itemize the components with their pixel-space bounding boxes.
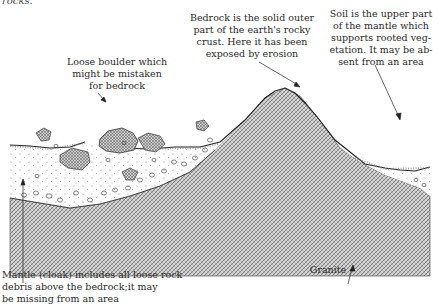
mantle-label: Mantle (cloak) includes all loose rock d… xyxy=(2,269,222,305)
loose-boulder xyxy=(99,128,138,153)
soil-label: Soil is the upper part of the mantle whi… xyxy=(325,8,437,68)
bedrock-label: Bedrock is the solid outer part of the e… xyxy=(172,12,332,60)
granite-label: Granite xyxy=(298,264,358,276)
boulder-label: Loose boulder which might be mistaken fo… xyxy=(62,56,172,92)
